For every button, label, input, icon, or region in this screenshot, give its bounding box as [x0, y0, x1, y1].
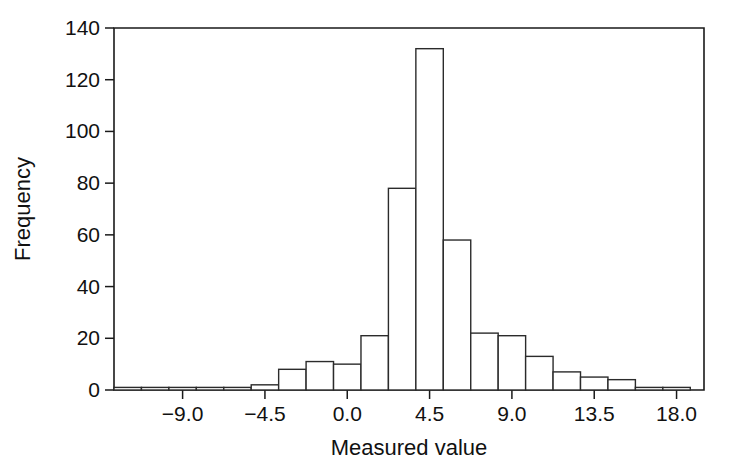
histogram-bar: [553, 372, 580, 390]
y-axis-title: Frequency: [10, 157, 35, 261]
x-tick-label: 9.0: [497, 402, 526, 425]
y-tick-label: 120: [65, 68, 100, 91]
x-tick-label: 18.0: [656, 402, 697, 425]
histogram-bar: [581, 377, 608, 390]
y-axis-tick-labels: 020406080100120140: [65, 16, 100, 401]
x-axis-tick-labels: −9.0−4.50.04.59.013.518.0: [162, 402, 697, 425]
x-tick-label: 0.0: [333, 402, 362, 425]
histogram-bar: [306, 362, 333, 390]
y-axis-ticks: [105, 28, 114, 390]
histogram-bar: [471, 333, 498, 390]
histogram-bar: [416, 49, 443, 390]
histogram-svg: 020406080100120140 −9.0−4.50.04.59.013.5…: [0, 0, 735, 471]
histogram-figure: 020406080100120140 −9.0−4.50.04.59.013.5…: [0, 0, 735, 471]
histogram-bar: [334, 364, 361, 390]
x-tick-label: 4.5: [415, 402, 444, 425]
histogram-bar: [169, 387, 196, 390]
x-tick-label: −4.5: [244, 402, 285, 425]
histogram-bar: [114, 387, 141, 390]
y-tick-label: 60: [77, 223, 100, 246]
x-tick-label: −9.0: [162, 402, 203, 425]
histogram-bar: [141, 387, 168, 390]
histogram-bar: [251, 385, 278, 390]
chart-canvas: 020406080100120140 −9.0−4.50.04.59.013.5…: [0, 0, 735, 471]
histogram-bar: [443, 240, 470, 390]
x-tick-label: 13.5: [574, 402, 615, 425]
y-tick-label: 20: [77, 326, 100, 349]
histogram-bar: [663, 387, 690, 390]
y-tick-label: 140: [65, 16, 100, 39]
histogram-bar: [498, 336, 525, 390]
histogram-bar: [635, 387, 662, 390]
y-tick-label: 0: [88, 378, 100, 401]
y-tick-label: 100: [65, 119, 100, 142]
x-axis-ticks: [183, 390, 677, 399]
histogram-bar: [224, 387, 251, 390]
histogram-bars: [114, 49, 690, 390]
histogram-bar: [196, 387, 223, 390]
x-axis-title: Measured value: [331, 435, 488, 460]
histogram-bar: [608, 380, 635, 390]
y-tick-label: 80: [77, 171, 100, 194]
y-tick-label: 40: [77, 275, 100, 298]
histogram-bar: [526, 356, 553, 390]
histogram-bar: [361, 336, 388, 390]
histogram-bar: [279, 369, 306, 390]
histogram-bar: [388, 188, 415, 390]
